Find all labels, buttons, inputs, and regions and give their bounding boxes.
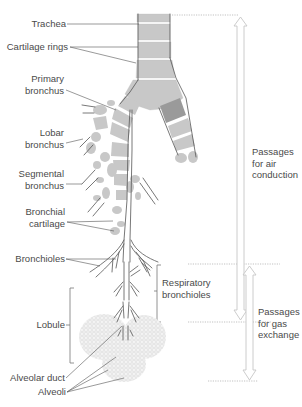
label-trachea: Trachea [0, 18, 66, 30]
label-cartilage-rings: Cartilage rings [0, 41, 68, 53]
label-bronchial-cartilage: Bronchial cartilage [0, 206, 65, 229]
label-lobar-bronchus: Lobar bronchus [0, 127, 64, 150]
airway-tree-diagram [0, 0, 302, 407]
gas-exchange-arrow [243, 266, 256, 380]
label-alveoli: Alveoli [0, 386, 66, 398]
trachea [125, 14, 183, 110]
respiratory-bronchioles-bracket [154, 265, 161, 322]
lobule-bracket [66, 288, 74, 363]
label-lobule: Lobule [0, 319, 65, 331]
label-gas-exchange: Passages for gas exchange [258, 306, 300, 341]
label-primary-bronchus: Primary bronchus [0, 73, 64, 96]
label-bronchioles: Bronchioles [0, 253, 65, 265]
label-respiratory-bronchioles: Respiratory bronchioles [162, 277, 211, 300]
alveoli-clusters [79, 314, 166, 382]
label-air-conduction: Passages for air conduction [252, 146, 298, 181]
label-alveolar-duct: Alveolar duct [0, 372, 65, 384]
right-primary-bronchus [160, 98, 198, 163]
label-segmental-bronchus: Segmental bronchus [0, 168, 64, 191]
